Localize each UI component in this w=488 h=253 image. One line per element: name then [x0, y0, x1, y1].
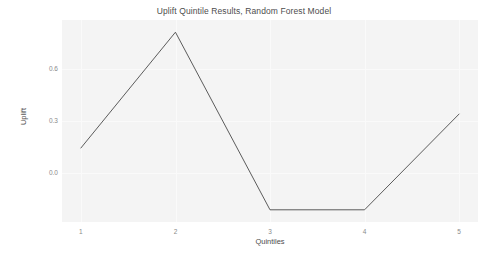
y-tick-label: 0.3: [0, 117, 58, 124]
x-tick-label: 3: [255, 228, 285, 235]
y-tick-label: 0.0: [0, 169, 58, 176]
x-tick-label: 1: [66, 228, 96, 235]
series-polyline: [81, 32, 459, 210]
plot-panel: [62, 20, 478, 222]
uplift-quintile-chart: Uplift Quintile Results, Random Forest M…: [0, 0, 488, 253]
series-line-uplift: [62, 20, 478, 222]
x-axis-title: Quintiles: [62, 237, 478, 246]
y-tick-label: 0.6: [0, 65, 58, 72]
x-tick-label: 4: [350, 228, 380, 235]
x-tick-label: 5: [444, 228, 474, 235]
x-tick-label: 2: [161, 228, 191, 235]
chart-title: Uplift Quintile Results, Random Forest M…: [0, 6, 488, 16]
y-axis-title: Uplift: [19, 87, 28, 147]
